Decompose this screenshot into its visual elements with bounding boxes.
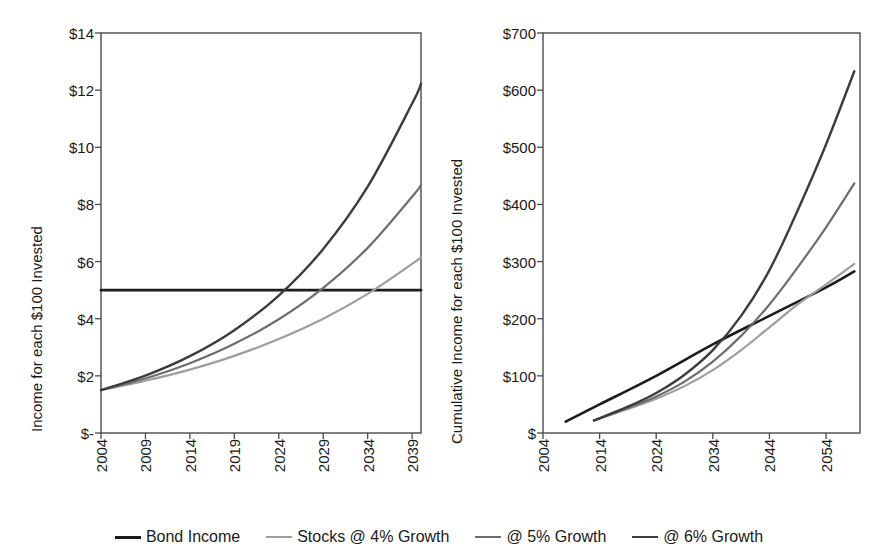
legend-label: @ 5% Growth: [506, 529, 606, 545]
x-tick-label: 2004: [535, 439, 552, 472]
x-tick-label: 2014: [181, 439, 198, 472]
x-tick-label: 2044: [761, 439, 778, 472]
x-tick-label: 2039: [404, 439, 421, 472]
chart-panel-cumulative-income: Cumulative Income for each $100 Invested…: [436, 0, 878, 512]
x-tick-label: 2009: [137, 439, 154, 472]
legend-item[interactable]: @ 6% Growth: [632, 529, 763, 545]
legend-label: Stocks @ 4% Growth: [297, 529, 449, 545]
x-axis-tick-labels: 20042009201420192024202920342039: [0, 0, 436, 512]
x-tick-label: 2054: [818, 439, 835, 472]
x-tick-label: 2024: [270, 439, 287, 472]
legend-label: @ 6% Growth: [663, 529, 763, 545]
legend-swatch-line-icon: [115, 536, 141, 539]
legend-item[interactable]: @ 5% Growth: [475, 529, 606, 545]
legend-swatch-line-icon: [475, 536, 501, 538]
legend-item[interactable]: Stocks @ 4% Growth: [266, 529, 449, 545]
chart-panel-annual-income: Income for each $100 Invested $-$2$4$6$8…: [0, 0, 436, 512]
legend-label: Bond Income: [146, 529, 240, 545]
figure-root: Income for each $100 Invested $-$2$4$6$8…: [0, 0, 878, 560]
legend-item[interactable]: Bond Income: [115, 529, 240, 545]
legend-swatch-line-icon: [266, 536, 292, 538]
x-tick-label: 2029: [315, 439, 332, 472]
x-tick-label: 2034: [359, 439, 376, 472]
legend-swatch-line-icon: [632, 536, 658, 538]
x-tick-label: 2014: [591, 439, 608, 472]
x-axis-tick-labels: 200420142024203420442054: [436, 0, 878, 512]
x-tick-label: 2019: [226, 439, 243, 472]
chart-legend: Bond IncomeStocks @ 4% Growth@ 5% Growth…: [0, 514, 878, 560]
x-tick-label: 2034: [704, 439, 721, 472]
x-tick-label: 2004: [93, 439, 110, 472]
x-tick-label: 2024: [648, 439, 665, 472]
